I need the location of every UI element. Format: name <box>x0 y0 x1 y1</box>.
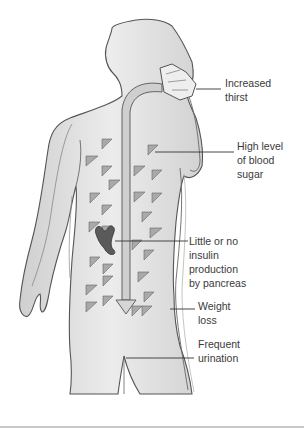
label-increased-thirst: Increased thirst <box>225 76 271 104</box>
label-frequent-urination: Frequent urination <box>198 337 240 365</box>
label-little-insulin: Little or no insulin production by pancr… <box>189 234 246 290</box>
human-body-figure <box>20 19 203 394</box>
diabetes-diagram <box>0 0 304 428</box>
label-weight-loss: Weight loss <box>198 299 231 327</box>
label-high-blood-sugar: High level of blood sugar <box>237 139 283 181</box>
